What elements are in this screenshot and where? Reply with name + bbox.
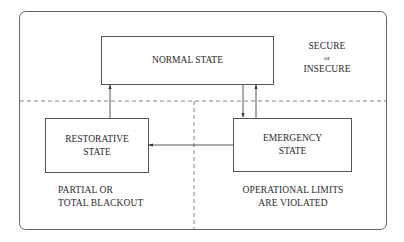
- emergency-annotation-line1: OPERATIONAL LIMITS: [228, 184, 358, 197]
- emergency-annotation: OPERATIONAL LIMITS ARE VIOLATED: [228, 184, 358, 210]
- restorative-state-label-line2: STATE: [83, 146, 111, 159]
- normal-annotation-line1: SECURE: [287, 40, 367, 53]
- emergency-state-label-line1: EMERGENCY: [263, 132, 322, 145]
- emergency-annotation-line2: ARE VIOLATED: [228, 197, 358, 210]
- normal-annotation: SECURE or INSECURE: [287, 40, 367, 76]
- normal-annotation-line2: or: [287, 53, 367, 63]
- normal-state-label: NORMAL STATE: [152, 54, 223, 67]
- normal-state-box: NORMAL STATE: [101, 36, 274, 85]
- restorative-annotation-line1: PARTIAL OR: [58, 184, 143, 197]
- emergency-state-label-line2: STATE: [279, 145, 307, 158]
- restorative-annotation-line2: TOTAL BLACKOUT: [58, 197, 143, 210]
- emergency-state-box: EMERGENCY STATE: [233, 118, 352, 172]
- restorative-state-box: RESTORATIVE STATE: [45, 118, 149, 173]
- restorative-state-label-line1: RESTORATIVE: [65, 133, 129, 146]
- restorative-annotation: PARTIAL OR TOTAL BLACKOUT: [58, 184, 143, 210]
- normal-annotation-line3: INSECURE: [287, 63, 367, 76]
